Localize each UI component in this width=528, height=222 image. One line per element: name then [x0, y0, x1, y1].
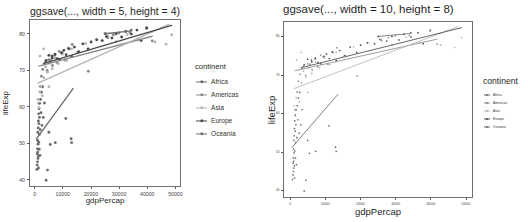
data-point	[73, 46, 76, 49]
legend-right: continent AfricaAmericasAsiaEuropeOceani…	[483, 76, 518, 131]
data-point	[62, 49, 65, 52]
data-point	[40, 75, 43, 78]
data-point	[38, 116, 41, 119]
x-tick-mark	[360, 198, 361, 200]
data-point	[297, 97, 299, 99]
legend-item-americas[interactable]: Americas	[483, 99, 518, 107]
data-point	[165, 43, 168, 46]
y-tick-label: 40	[11, 177, 25, 183]
data-point	[292, 179, 294, 181]
x-tick-label: 50000	[462, 202, 471, 206]
data-point	[314, 61, 316, 63]
data-point	[37, 102, 40, 105]
data-point	[296, 59, 298, 61]
data-point	[60, 51, 63, 54]
legend-item-asia[interactable]: Asia	[195, 101, 238, 114]
data-point	[54, 141, 57, 144]
figure-comparison-sheet: ggsave(..., width = 5, height = 4) 40506…	[0, 0, 528, 222]
data-point	[47, 131, 50, 134]
y-tick-label: 50	[266, 150, 280, 154]
data-point	[64, 117, 67, 120]
data-point	[294, 120, 296, 122]
x-tick-mark	[62, 187, 63, 189]
data-point	[314, 57, 316, 59]
data-point	[39, 154, 42, 157]
data-point	[37, 122, 40, 125]
scatter-series-asia	[37, 26, 173, 109]
chart-title-right: ggsave(..., width = 10, height = 8)	[283, 3, 454, 15]
legend-item-label: Americas	[493, 101, 507, 105]
data-point	[356, 75, 358, 77]
legend-item-americas[interactable]: Americas	[195, 88, 238, 101]
y-tick-mark	[27, 106, 29, 107]
legend-swatch-icon	[483, 99, 491, 107]
legend-item-oceania[interactable]: Oceania	[483, 123, 518, 131]
legend-item-label: Asia	[211, 104, 224, 111]
data-point	[300, 124, 302, 126]
data-point	[37, 98, 40, 101]
data-point	[41, 124, 44, 127]
data-point	[51, 67, 54, 70]
legend-swatch-icon	[195, 114, 208, 127]
data-point	[298, 101, 300, 103]
data-point	[356, 52, 358, 54]
x-tick-label: 10000	[321, 202, 330, 206]
data-point	[37, 120, 40, 123]
data-point	[39, 55, 42, 58]
legend-item-africa[interactable]: Africa	[483, 91, 518, 99]
legend-swatch-icon	[195, 88, 208, 101]
trend-line-asia	[294, 27, 458, 89]
legend-item-label: Americas	[211, 91, 238, 98]
data-point	[294, 109, 296, 111]
data-point	[311, 59, 313, 61]
trend-line-oceania	[378, 33, 411, 36]
data-point	[36, 160, 39, 163]
data-point	[293, 171, 295, 173]
y-tick-label: 40	[266, 188, 280, 192]
legend-item-oceania[interactable]: Oceania	[195, 127, 238, 140]
data-point	[101, 39, 104, 42]
y-tick-label: 80	[266, 34, 280, 38]
data-point	[42, 116, 45, 119]
data-point	[386, 40, 388, 42]
data-point	[67, 47, 70, 50]
trend-line-asia	[38, 24, 169, 83]
scatter-series-africa	[292, 92, 337, 192]
data-point	[320, 54, 322, 56]
data-point	[381, 38, 383, 40]
data-point	[367, 42, 369, 44]
legend-swatch-icon	[483, 115, 491, 123]
plot-panel-left	[29, 19, 181, 187]
legend-item-europe[interactable]: Europe	[483, 115, 518, 123]
data-point	[295, 157, 297, 159]
data-point	[294, 165, 296, 167]
legend-item-label: Oceania	[493, 125, 506, 129]
data-point	[293, 152, 295, 154]
data-point	[305, 76, 307, 78]
data-point	[328, 58, 330, 60]
data-point	[49, 143, 52, 146]
data-point	[112, 33, 115, 36]
legend-item-africa[interactable]: Africa	[195, 75, 238, 88]
data-point	[65, 53, 68, 56]
data-point	[293, 160, 295, 162]
x-tick-label: 40000	[426, 202, 435, 206]
legend-item-europe[interactable]: Europe	[195, 114, 238, 127]
data-point	[51, 56, 54, 59]
data-point	[44, 65, 47, 68]
data-point	[295, 97, 297, 99]
data-point	[292, 174, 294, 176]
trend-line-europe	[44, 25, 172, 63]
x-tick-mark	[430, 198, 431, 200]
data-point	[38, 90, 41, 93]
x-tick-mark	[175, 187, 176, 189]
y-tick-mark	[281, 113, 283, 114]
y-axis-title-right: lifeExp	[266, 96, 277, 125]
legend-item-asia[interactable]: Asia	[483, 107, 518, 115]
data-point	[41, 94, 44, 97]
data-point	[294, 150, 296, 152]
legend-item-label: Europe	[211, 117, 232, 124]
data-point	[40, 111, 43, 114]
data-point	[303, 71, 305, 73]
data-point	[301, 109, 303, 111]
